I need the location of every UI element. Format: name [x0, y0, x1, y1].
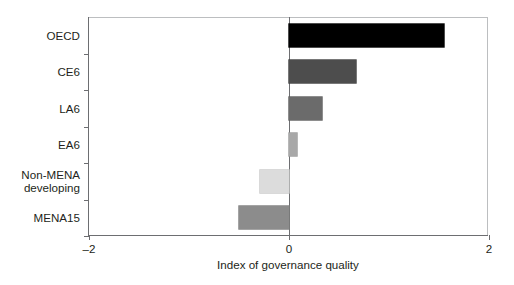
category-label: CE6 — [0, 65, 80, 78]
bar-oecd — [289, 24, 444, 47]
x-axis-tick-label: –2 — [83, 242, 96, 255]
category-label: OECD — [0, 29, 80, 42]
bars-layer — [89, 17, 488, 235]
plot-area: OECDCE6LA6EA6Non-MENA developingMENA15 –… — [88, 17, 488, 236]
bar-non-mena-developing — [260, 170, 289, 193]
bar-chart: OECDCE6LA6EA6Non-MENA developingMENA15 –… — [0, 0, 514, 285]
category-label: Non-MENA developing — [0, 168, 80, 194]
category-tick — [84, 163, 89, 164]
x-axis-tick-label: 0 — [286, 242, 292, 255]
category-tick — [84, 127, 89, 128]
category-tick — [84, 200, 89, 201]
category-tick — [84, 54, 89, 55]
category-label: EA6 — [0, 138, 80, 151]
bar-ce6 — [289, 60, 356, 83]
x-axis-tick — [489, 235, 490, 240]
x-axis-tick-label: 2 — [486, 242, 492, 255]
category-tick — [84, 90, 89, 91]
category-label: LA6 — [0, 102, 80, 115]
x-axis-title: Index of governance quality — [88, 258, 488, 271]
bar-ea6 — [289, 133, 297, 156]
category-label: MENA15 — [0, 211, 80, 224]
x-axis-tick — [289, 235, 290, 240]
bar-la6 — [289, 97, 322, 120]
x-axis-tick — [89, 235, 90, 240]
bar-mena15 — [239, 206, 289, 229]
